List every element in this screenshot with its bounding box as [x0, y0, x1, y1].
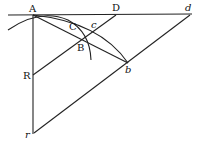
line-r-d [34, 15, 190, 133]
label-A: A [28, 3, 37, 14]
label-C: C [69, 21, 77, 32]
label-D: D [112, 2, 120, 13]
label-d: d [185, 2, 191, 13]
label-R: R [23, 70, 31, 81]
label-c: c [91, 19, 97, 30]
line-A-b [33, 15, 128, 63]
label-B: B [77, 42, 84, 53]
label-b: b [125, 64, 131, 75]
label-r: r [25, 129, 31, 140]
geometry-diagram: A D d C c B b R r [0, 0, 198, 143]
